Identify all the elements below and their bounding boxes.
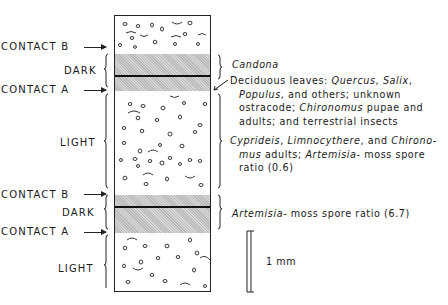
- scale-bar: [0, 0, 448, 305]
- scale-bar-label: 1 mm: [266, 255, 296, 269]
